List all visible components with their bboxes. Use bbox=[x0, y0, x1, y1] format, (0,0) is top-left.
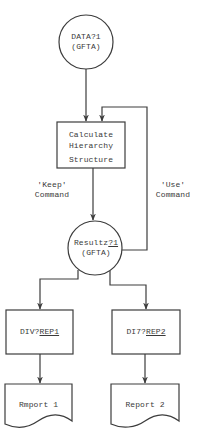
results-line1-prefix: Resultz bbox=[74, 238, 108, 247]
keep-line2: Command bbox=[30, 190, 74, 200]
use-line1: 'Use' bbox=[151, 180, 195, 190]
rep2-prefix: DI7? bbox=[126, 327, 146, 336]
process-line3: Structure bbox=[57, 154, 125, 165]
results-line2: (GFTA) bbox=[68, 248, 124, 258]
report-2-text: Report 2 bbox=[125, 400, 164, 409]
flowchart-canvas bbox=[0, 0, 210, 440]
use-command-label: 'Use' Command bbox=[151, 180, 195, 200]
process-label: Calculate Hierarchy Structure bbox=[57, 129, 125, 165]
edge-results-to-rep1 bbox=[40, 270, 78, 309]
data-file-line1: DATA?1 bbox=[59, 32, 113, 42]
data-file-label: DATA?1 (GFTA) bbox=[59, 32, 113, 52]
rep1-prefix: DIV? bbox=[20, 327, 40, 336]
keep-command-label: 'Keep' Command bbox=[30, 180, 74, 200]
rep2-suffix: REP2 bbox=[146, 327, 166, 336]
process-line2: Hierarchy bbox=[57, 140, 125, 151]
report-proc-2-label: DI7?REP2 bbox=[112, 327, 180, 337]
edge-results-to-rep2 bbox=[110, 271, 146, 309]
results-file-label: Resultz?1 (GFTA) bbox=[68, 238, 124, 258]
report-proc-1-label: DIV?REP1 bbox=[6, 327, 73, 337]
process-line1: Calculate bbox=[57, 129, 125, 140]
report-2-label: Report 2 bbox=[111, 400, 179, 410]
rep1-suffix: REP1 bbox=[40, 327, 60, 336]
results-line1-suffix: ?1 bbox=[108, 238, 118, 247]
results-line1: Resultz?1 bbox=[68, 238, 124, 248]
use-line2: Command bbox=[151, 190, 195, 200]
data-file-line2: (GFTA) bbox=[59, 42, 113, 52]
report-1-text: Rmport 1 bbox=[19, 400, 58, 409]
keep-line1: 'Keep' bbox=[30, 180, 74, 190]
report-1-label: Rmport 1 bbox=[5, 400, 72, 410]
